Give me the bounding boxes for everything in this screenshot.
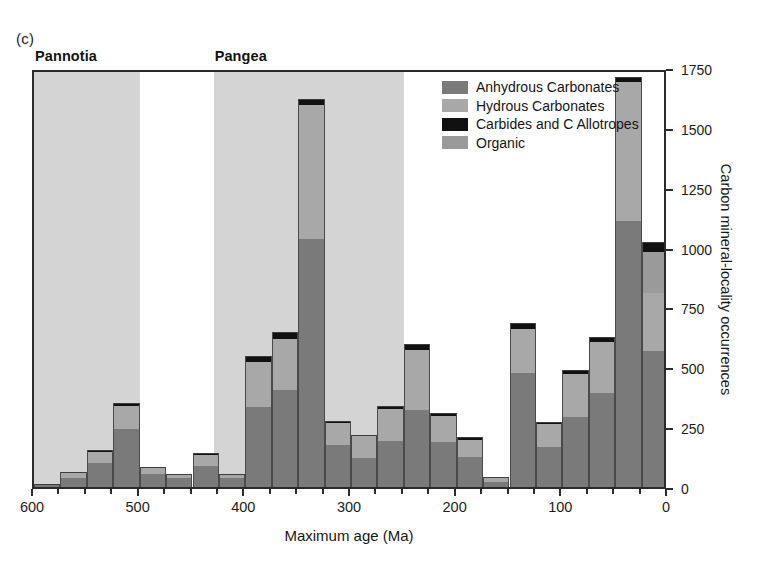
y-axis-tick bbox=[666, 69, 673, 71]
legend-label: Organic bbox=[476, 135, 525, 151]
bar-segment-hydrous-carbonates bbox=[643, 293, 664, 352]
x-axis-tick bbox=[665, 489, 667, 496]
bar-segment-anhydrous-carbonates bbox=[194, 466, 218, 489]
bar-segment-anhydrous-carbonates bbox=[537, 447, 561, 489]
band-caption-pannotia: Pannotia bbox=[35, 48, 97, 64]
bar-200-175-ma bbox=[457, 437, 483, 489]
panel-label: (c) bbox=[16, 30, 34, 47]
legend-item-hydrous[interactable]: Hydrous Carbonates bbox=[442, 97, 639, 116]
legend-item-anhydrous[interactable]: Anhydrous Carbonates bbox=[442, 78, 639, 97]
x-axis-minor-tick bbox=[480, 489, 482, 494]
bar-segment-hydrous-carbonates bbox=[590, 342, 614, 393]
y-axis-tick bbox=[666, 428, 673, 430]
x-axis-minor-tick bbox=[110, 489, 112, 494]
x-axis-tick-label: 100 bbox=[548, 499, 572, 515]
bar-segment-hydrous-carbonates bbox=[537, 424, 561, 447]
legend-label: Hydrous Carbonates bbox=[476, 98, 604, 114]
y-axis-tick bbox=[666, 368, 673, 370]
bar-segment-anhydrous-carbonates bbox=[405, 410, 429, 489]
bar-segment-hydrous-carbonates bbox=[194, 455, 218, 466]
x-axis-tick-label: 600 bbox=[20, 499, 44, 515]
x-axis-minor-tick bbox=[269, 489, 271, 494]
legend-item-carbide[interactable]: Carbides and C Allotropes bbox=[442, 115, 639, 134]
y-axis-tick-label: 1500 bbox=[681, 122, 712, 138]
legend-swatch-hydrous-icon bbox=[442, 99, 468, 112]
bar-segment-hydrous-carbonates bbox=[378, 409, 402, 441]
bar-125-100-ma bbox=[536, 422, 562, 489]
bar-segment-anhydrous-carbonates bbox=[299, 239, 323, 489]
bar-segment-organic bbox=[643, 252, 664, 293]
bar-275-250-ma bbox=[377, 406, 403, 489]
bar-25-0-ma bbox=[642, 242, 664, 489]
y-axis-tick-label: 750 bbox=[681, 301, 704, 317]
y-axis-tick bbox=[666, 189, 673, 191]
legend-swatch-anhydrous-icon bbox=[442, 81, 468, 94]
bar-segment-hydrous-carbonates bbox=[114, 406, 138, 429]
x-axis-minor-tick bbox=[374, 489, 376, 494]
x-axis-minor-tick bbox=[586, 489, 588, 494]
bar-segment-carbides-and-c-allotropes bbox=[273, 332, 297, 339]
x-axis-minor-tick bbox=[612, 489, 614, 494]
band-caption-pangea: Pangea bbox=[215, 48, 267, 64]
bar-450-425-ma bbox=[193, 453, 219, 489]
y-axis-tick-label: 500 bbox=[681, 361, 704, 377]
bar-325-300-ma bbox=[325, 421, 351, 489]
y-axis-tick bbox=[666, 129, 673, 131]
y-axis-tick bbox=[666, 488, 673, 490]
x-axis-minor-tick bbox=[216, 489, 218, 494]
y-axis-tick bbox=[666, 308, 673, 310]
x-axis-tick-label: 300 bbox=[337, 499, 361, 515]
bar-segment-hydrous-carbonates bbox=[458, 440, 482, 457]
bar-segment-hydrous-carbonates bbox=[326, 423, 350, 445]
y-axis-tick bbox=[666, 249, 673, 251]
bar-300-275-ma bbox=[351, 435, 377, 489]
x-axis-tick-label: 0 bbox=[662, 499, 670, 515]
chart-legend: Anhydrous CarbonatesHydrous CarbonatesCa… bbox=[442, 78, 639, 152]
y-axis-tick-label: 1250 bbox=[681, 182, 712, 198]
bar-segment-anhydrous-carbonates bbox=[616, 221, 640, 489]
bar-segment-hydrous-carbonates bbox=[511, 329, 535, 373]
x-axis-tick bbox=[31, 489, 33, 496]
bar-segment-hydrous-carbonates bbox=[563, 374, 587, 417]
x-axis-tick-label: 400 bbox=[231, 499, 255, 515]
x-axis-tick bbox=[137, 489, 139, 496]
bar-segment-anhydrous-carbonates bbox=[511, 373, 535, 489]
bar-225-200-ma bbox=[430, 413, 456, 489]
bar-segment-anhydrous-carbonates bbox=[352, 458, 376, 489]
legend-swatch-organic-icon bbox=[442, 136, 468, 149]
y-axis-title: Carbon mineral-locality occurrences bbox=[712, 70, 734, 489]
bar-segment-hydrous-carbonates bbox=[273, 339, 297, 389]
bar-segment-hydrous-carbonates bbox=[246, 362, 270, 407]
bar-75-50-ma bbox=[589, 337, 615, 489]
y-axis-tick-label: 1750 bbox=[681, 62, 712, 78]
bar-550-525-ma bbox=[87, 450, 113, 489]
x-axis-minor-tick bbox=[639, 489, 641, 494]
legend-label: Carbides and C Allotropes bbox=[476, 116, 639, 132]
x-axis-minor-tick bbox=[295, 489, 297, 494]
x-axis-minor-tick bbox=[533, 489, 535, 494]
x-axis-tick bbox=[242, 489, 244, 496]
x-axis-tick-label: 500 bbox=[126, 499, 150, 515]
bar-segment-hydrous-carbonates bbox=[299, 105, 323, 239]
bar-150-125-ma bbox=[510, 323, 536, 489]
bar-segment-anhydrous-carbonates bbox=[590, 393, 614, 489]
bar-segment-hydrous-carbonates bbox=[352, 436, 376, 458]
legend-swatch-carbide-icon bbox=[442, 118, 468, 131]
bar-segment-anhydrous-carbonates bbox=[458, 457, 482, 489]
legend-item-organic[interactable]: Organic bbox=[442, 134, 639, 153]
x-axis-minor-tick bbox=[507, 489, 509, 494]
x-axis-tick-label: 200 bbox=[443, 499, 467, 515]
bar-segment-hydrous-carbonates bbox=[431, 416, 455, 442]
bar-segment-anhydrous-carbonates bbox=[643, 351, 664, 489]
x-axis-minor-tick bbox=[322, 489, 324, 494]
bar-525-500-ma bbox=[113, 403, 139, 489]
y-axis-tick-label: 1000 bbox=[681, 242, 712, 258]
bar-segment-anhydrous-carbonates bbox=[273, 390, 297, 489]
bar-segment-hydrous-carbonates bbox=[405, 350, 429, 410]
x-axis-tick bbox=[454, 489, 456, 496]
bar-375-350-ma bbox=[272, 332, 298, 489]
y-axis-tick-label: 0 bbox=[681, 481, 689, 497]
x-axis-tick bbox=[348, 489, 350, 496]
x-axis-title: Maximum age (Ma) bbox=[32, 527, 666, 544]
x-axis-minor-tick bbox=[84, 489, 86, 494]
